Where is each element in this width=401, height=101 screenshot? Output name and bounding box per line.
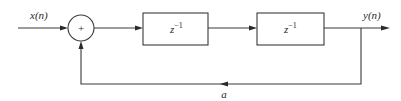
output-label: y(n) (362, 9, 381, 22)
feedback-up-arrow-icon (79, 41, 84, 49)
input-label: x(n) (29, 9, 48, 22)
input-arrow-icon (60, 26, 68, 31)
delay2-input-arrow-icon (249, 26, 257, 31)
feedback-left-arrow-icon (220, 82, 228, 87)
delay1-input-arrow-icon (135, 26, 143, 31)
summer-plus-sign: + (78, 22, 84, 34)
feedback-gain-label: a (221, 88, 227, 100)
block-diagram: x(n) + z−1 z−1 y(n) a (0, 0, 401, 101)
output-arrow-icon (381, 26, 390, 31)
